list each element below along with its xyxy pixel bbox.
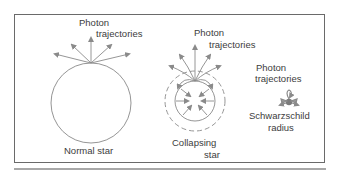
black-hole-trajectory-label-line2: trajectories <box>255 74 301 84</box>
black-hole-dot <box>286 99 292 105</box>
schwarzschild-caption-line2: radius <box>268 123 294 133</box>
collapsing-star-outward-arrows <box>170 46 220 88</box>
normal-star-group <box>51 38 131 143</box>
collapsing-star-group <box>165 46 225 131</box>
collapsing-star-trajectory-label-line2: trajectories <box>209 40 255 50</box>
black-hole-group <box>280 90 298 105</box>
photon-trajectories-diagram <box>0 0 338 175</box>
collapsing-star-caption-line1: Collapsing <box>172 138 216 148</box>
collapsing-star-caption-line2: star <box>204 150 220 160</box>
normal-star-trajectory-label-line2: trajectories <box>96 29 142 39</box>
normal-star-caption: Normal star <box>64 146 113 156</box>
normal-star-trajectory-label-line1: Photon <box>79 18 109 28</box>
normal-star-photon-arrows <box>55 38 129 63</box>
collapsing-star-trajectory-label-line1: Photon <box>194 28 224 38</box>
schwarzschild-caption-line1: Schwarzschild <box>249 111 310 121</box>
black-hole-trajectory-label-line1: Photon <box>256 63 286 73</box>
normal-star-circle <box>51 63 131 143</box>
collapsing-star-inward-arrows <box>176 89 214 115</box>
